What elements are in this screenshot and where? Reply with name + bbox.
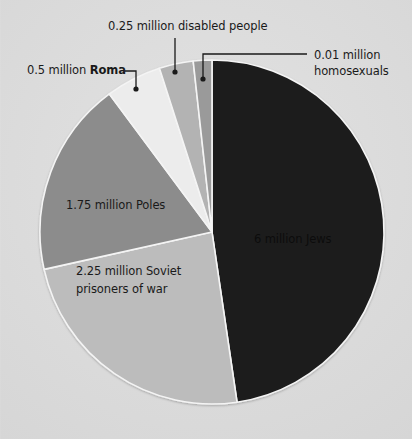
label-soviet-line2: prisoners of war: [76, 282, 167, 297]
pie-slices: [40, 60, 384, 404]
label-homosexuals-line2: homosexuals: [314, 64, 389, 79]
label-disabled: 0.25 million disabled people: [108, 19, 267, 34]
pie-chart: 0.25 million disabled people 0.01 millio…: [0, 0, 412, 439]
label-jews: 6 million Jews: [254, 232, 331, 247]
label-poles: 1.75 million Poles: [66, 198, 165, 213]
label-soviet-line1: 2.25 million Soviet: [76, 264, 181, 279]
roma-leader-dot: [133, 86, 138, 91]
label-roma-bold: Roma: [90, 63, 126, 77]
label-homosexuals-line1: 0.01 million: [314, 48, 380, 63]
homosexuals-leader-dot: [200, 76, 205, 81]
disabled-leader-dot: [172, 69, 177, 74]
label-roma: 0.5 million Roma: [27, 63, 126, 78]
label-roma-prefix: 0.5 million: [27, 63, 90, 77]
